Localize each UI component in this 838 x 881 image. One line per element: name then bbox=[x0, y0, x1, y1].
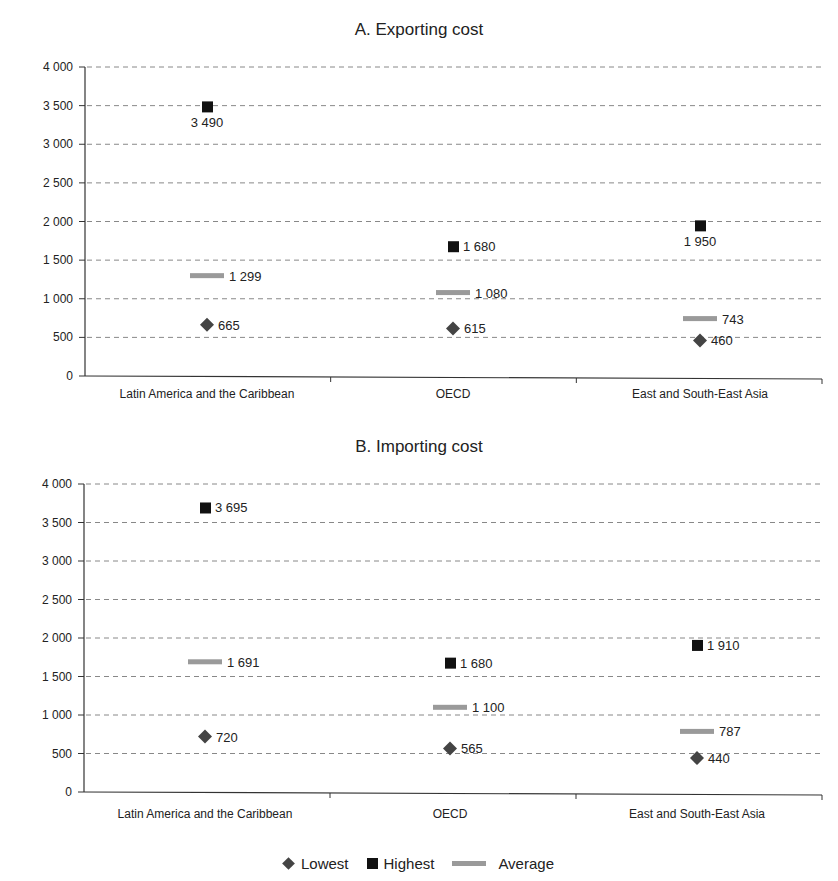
y-tick-label: 0 bbox=[65, 785, 72, 799]
category-label: Latin America and the Caribbean bbox=[118, 807, 293, 821]
dash-icon bbox=[452, 861, 486, 866]
y-tick-label: 1 500 bbox=[42, 670, 72, 684]
y-tick-label: 1 000 bbox=[42, 708, 72, 722]
average-bar bbox=[683, 316, 717, 321]
y-tick-label: 3 500 bbox=[43, 99, 73, 113]
data-label: 615 bbox=[464, 321, 486, 336]
data-label: 1 080 bbox=[475, 286, 508, 301]
legend-label: Highest bbox=[384, 855, 435, 872]
data-label: 565 bbox=[461, 741, 483, 756]
y-tick-label: 1 000 bbox=[43, 292, 73, 306]
data-label: 720 bbox=[216, 730, 238, 745]
category-label: OECD bbox=[436, 387, 471, 401]
data-label: 1 299 bbox=[229, 269, 262, 284]
data-label: 1 100 bbox=[472, 700, 505, 715]
y-tick-label: 3 000 bbox=[43, 137, 73, 151]
legend-item-highest: Highest bbox=[367, 855, 435, 872]
y-tick-label: 4 000 bbox=[42, 477, 72, 491]
category-label: East and South-East Asia bbox=[632, 387, 768, 401]
y-tick-label: 500 bbox=[52, 747, 72, 761]
category-label: Latin America and the Caribbean bbox=[120, 387, 295, 401]
square-marker bbox=[200, 502, 211, 513]
average-bar bbox=[680, 729, 714, 734]
category-label: OECD bbox=[433, 807, 468, 821]
legend-label: Average bbox=[498, 855, 554, 872]
category-label: East and South-East Asia bbox=[629, 807, 765, 821]
data-label: 787 bbox=[719, 724, 741, 739]
square-marker bbox=[448, 241, 459, 252]
legend-label: Lowest bbox=[301, 855, 349, 872]
chart-canvas: 05001 0001 5002 0002 5003 0003 5004 000L… bbox=[0, 0, 838, 881]
average-bar bbox=[433, 705, 467, 710]
y-tick-label: 2 500 bbox=[43, 176, 73, 190]
square-marker bbox=[695, 220, 706, 231]
diamond-marker bbox=[198, 730, 212, 744]
data-label: 3 695 bbox=[215, 500, 248, 515]
x-axis bbox=[85, 376, 822, 379]
diamond-marker bbox=[446, 321, 460, 335]
y-tick-label: 1 500 bbox=[43, 253, 73, 267]
square-marker bbox=[445, 658, 456, 669]
square-marker bbox=[202, 101, 213, 112]
x-axis bbox=[84, 792, 822, 795]
data-label: 460 bbox=[711, 333, 733, 348]
diamond-icon bbox=[282, 857, 295, 870]
data-label: 1 680 bbox=[460, 656, 493, 671]
data-label: 1 950 bbox=[684, 234, 717, 249]
average-bar bbox=[190, 273, 224, 278]
data-label: 665 bbox=[218, 318, 240, 333]
y-tick-label: 2 000 bbox=[42, 631, 72, 645]
diamond-marker bbox=[200, 318, 214, 332]
y-tick-label: 4 000 bbox=[43, 60, 73, 74]
y-tick-label: 3 000 bbox=[42, 554, 72, 568]
y-tick-label: 500 bbox=[53, 330, 73, 344]
y-tick-label: 2 000 bbox=[43, 215, 73, 229]
y-tick-label: 3 500 bbox=[42, 516, 72, 530]
y-tick-label: 2 500 bbox=[42, 593, 72, 607]
data-label: 1 910 bbox=[707, 638, 740, 653]
square-icon bbox=[367, 858, 378, 869]
data-label: 1 680 bbox=[463, 239, 496, 254]
average-bar bbox=[188, 659, 222, 664]
diamond-marker bbox=[443, 741, 457, 755]
legend-item-average: Average bbox=[452, 855, 554, 872]
legend: Lowest Highest Average bbox=[0, 855, 838, 872]
y-tick-label: 0 bbox=[66, 369, 73, 383]
square-marker bbox=[692, 640, 703, 651]
data-label: 440 bbox=[708, 751, 730, 766]
data-label: 743 bbox=[722, 312, 744, 327]
data-label: 1 691 bbox=[227, 655, 260, 670]
legend-item-lowest: Lowest bbox=[284, 855, 349, 872]
average-bar bbox=[436, 290, 470, 295]
data-label: 3 490 bbox=[191, 115, 224, 130]
diamond-marker bbox=[693, 333, 707, 347]
